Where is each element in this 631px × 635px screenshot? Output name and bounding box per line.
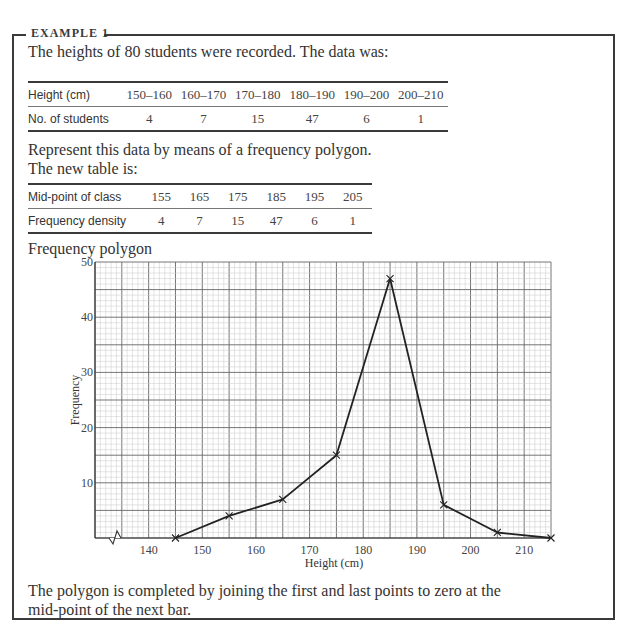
svg-text:50: 50 bbox=[81, 255, 93, 269]
frequency-polygon-chart: 1401501601701801902002101020304050 Frequ… bbox=[0, 0, 631, 635]
svg-text:140: 140 bbox=[140, 543, 158, 557]
svg-text:180: 180 bbox=[354, 543, 372, 557]
svg-text:210: 210 bbox=[515, 543, 533, 557]
svg-text:200: 200 bbox=[462, 543, 480, 557]
svg-text:30: 30 bbox=[81, 365, 93, 379]
svg-text:20: 20 bbox=[81, 421, 93, 435]
chart-axes bbox=[95, 262, 551, 544]
x-axis-label: Height (cm) bbox=[305, 556, 363, 570]
footer-text: The polygon is completed by joining the … bbox=[28, 581, 508, 619]
y-axis-label: Frequency bbox=[68, 375, 82, 426]
svg-text:170: 170 bbox=[301, 543, 319, 557]
svg-text:40: 40 bbox=[81, 310, 93, 324]
svg-text:150: 150 bbox=[193, 543, 211, 557]
graph-paper-grid bbox=[95, 262, 551, 538]
svg-text:190: 190 bbox=[408, 543, 426, 557]
svg-text:10: 10 bbox=[81, 476, 93, 490]
svg-text:160: 160 bbox=[247, 543, 265, 557]
